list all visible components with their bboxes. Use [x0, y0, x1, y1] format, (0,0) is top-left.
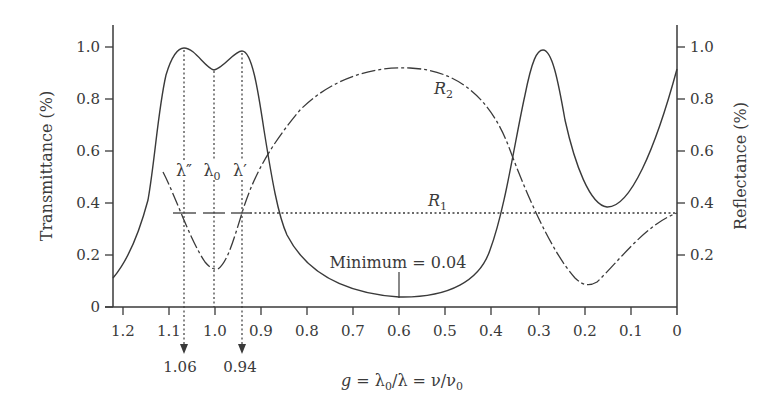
- right-y-tick-labels: 0.2 0.4 0.6 0.8 1.0: [690, 38, 714, 264]
- lambda-prime-label: λ′: [233, 161, 247, 180]
- x-tick-label: 0.2: [573, 322, 597, 340]
- lambda-0-label: λ0: [203, 161, 220, 183]
- x-axis-title: g = λ0/λ = ν/ν0: [341, 371, 463, 393]
- y-right-tick-label: 0.2: [690, 246, 714, 264]
- r1-label: R1: [427, 191, 447, 213]
- x-tick-label: 1.2: [111, 322, 135, 340]
- y-right-tick-label: 0.8: [690, 90, 714, 108]
- y-tick-label: 1.0: [76, 38, 100, 56]
- lambda-double-prime-label: λ″: [176, 161, 192, 180]
- y-right-axis-title: Reflectance (%): [731, 102, 750, 230]
- minimum-label: Minimum = 0.04: [330, 253, 467, 272]
- left-y-tick-labels: 0 0.2 0.4 0.6 0.8 1.0: [76, 38, 100, 316]
- y-tick-label: 0.2: [76, 246, 100, 264]
- x-tick-label: 0.4: [479, 322, 503, 340]
- x-tick-label: 0.3: [527, 322, 551, 340]
- arrow-down-icon: [180, 344, 188, 354]
- r2-label: R2: [433, 79, 453, 101]
- x-tick-label: 0.9: [249, 322, 273, 340]
- y-right-tick-label: 1.0: [690, 38, 714, 56]
- y-tick-label: 0.6: [76, 142, 100, 160]
- arrow-left-value: 1.06: [163, 358, 196, 376]
- wavelength-guides: [184, 50, 242, 350]
- x-ticks: [123, 307, 631, 315]
- x-tick-label: 0: [672, 322, 682, 340]
- right-y-ticks: [677, 47, 685, 255]
- x-tick-label: 0.8: [295, 322, 319, 340]
- x-tick-label: 0.7: [341, 322, 365, 340]
- x-tick-label: 1.1: [157, 322, 181, 340]
- y-right-tick-label: 0.4: [690, 194, 714, 212]
- y-right-tick-label: 0.6: [690, 142, 714, 160]
- y-tick-label: 0.4: [76, 194, 100, 212]
- y-left-axis-title: Transmittance (%): [37, 91, 56, 242]
- x-tick-label: 1.0: [203, 322, 227, 340]
- x-tick-label: 0.5: [433, 322, 457, 340]
- arrow-down-icon: [238, 344, 246, 354]
- arrowheads: [180, 344, 246, 354]
- left-y-ticks: [105, 47, 113, 307]
- y-tick-label: 0: [90, 298, 100, 316]
- x-tick-labels: 1.2 1.1 1.0 0.9 0.8 0.7 0.6 0.5 0.4 0.3 …: [111, 322, 682, 340]
- y-tick-label: 0.8: [76, 90, 100, 108]
- chart: 0 0.2 0.4 0.6 0.8 1.0 0.2 0.4 0.6 0.8 1.…: [0, 0, 779, 416]
- arrow-right-value: 0.94: [223, 358, 256, 376]
- x-tick-label: 0.1: [619, 322, 643, 340]
- x-tick-label: 0.6: [387, 322, 411, 340]
